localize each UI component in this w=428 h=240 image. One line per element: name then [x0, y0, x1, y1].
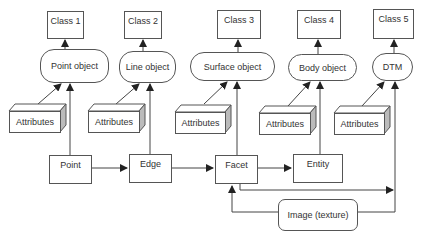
attributes-box-3: Attributes: [175, 112, 226, 134]
image-texture-node: Image (texture): [278, 199, 358, 231]
entity-label: Entity: [307, 159, 330, 169]
point-node: Point: [49, 155, 92, 184]
attributes-box-5: Attributes: [334, 113, 385, 135]
entity-node: Entity: [293, 154, 343, 183]
attributes-box-4: Attributes: [259, 113, 311, 135]
edge-label: Edge: [140, 159, 161, 169]
attributes-label-3: Attributes: [181, 118, 219, 128]
attributes-label-4: Attributes: [266, 119, 304, 129]
image-texture-label: Image (texture): [287, 210, 348, 220]
attributes-box-1: Attributes: [9, 111, 61, 133]
facet-label: Facet: [225, 160, 248, 170]
attributes-box-2: Attributes: [88, 111, 140, 133]
point-label: Point: [60, 160, 81, 170]
attributes-label-2: Attributes: [95, 117, 133, 127]
attributes-label-5: Attributes: [340, 119, 378, 129]
edge-node: Edge: [129, 154, 172, 183]
attributes-label-1: Attributes: [16, 117, 54, 127]
facet-node: Facet: [215, 155, 258, 184]
